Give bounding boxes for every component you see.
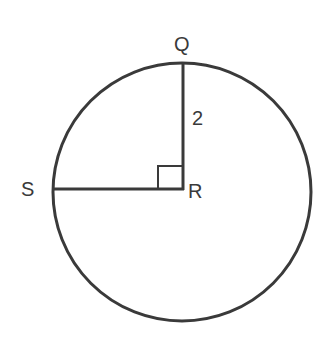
segment-length-label-qr: 2 [192,108,203,128]
diagram-background [0,0,332,341]
circle-diagram: Q S R 2 [0,0,332,341]
point-label-r: R [188,181,202,201]
geometry-canvas [0,0,332,341]
point-label-s: S [21,179,34,199]
point-label-q: Q [174,34,190,54]
